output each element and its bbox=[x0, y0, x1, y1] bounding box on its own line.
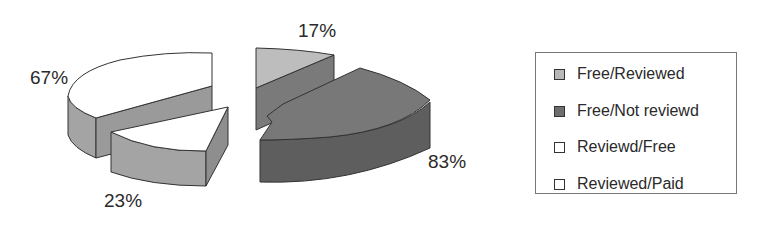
label-17-percent: 17% bbox=[298, 20, 336, 42]
legend-swatch-icon bbox=[554, 106, 565, 117]
legend-item-reviewed-paid: Reviewed/Paid bbox=[554, 174, 684, 194]
legend: Free/Reviewed Free/Not reviewd Reviewd/F… bbox=[535, 52, 737, 194]
label-67-percent: 67% bbox=[30, 67, 68, 89]
legend-swatch-icon bbox=[554, 142, 565, 153]
legend-item-free-not-reviewed: Free/Not reviewd bbox=[554, 101, 699, 121]
legend-label: Free/Reviewed bbox=[577, 65, 685, 83]
label-23-percent: 23% bbox=[104, 190, 142, 212]
label-83-percent: 83% bbox=[428, 151, 466, 173]
legend-item-reviewed-free: Reviewd/Free bbox=[554, 137, 676, 157]
legend-item-free-reviewed: Free/Reviewed bbox=[554, 64, 685, 84]
legend-swatch-icon bbox=[554, 179, 565, 190]
legend-label: Reviewd/Free bbox=[577, 138, 676, 156]
legend-label: Reviewed/Paid bbox=[577, 175, 684, 193]
legend-label: Free/Not reviewd bbox=[577, 102, 699, 120]
legend-swatch-icon bbox=[554, 69, 565, 80]
